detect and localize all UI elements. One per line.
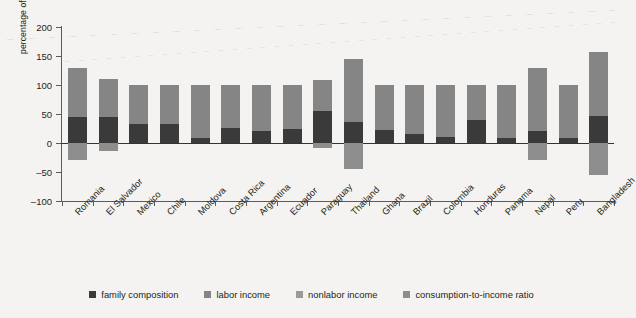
segment-consumption-to-income-ratio	[99, 143, 118, 151]
segment-labor-income	[467, 85, 486, 120]
bar-el-salvador[interactable]	[99, 27, 118, 201]
bar-ecuador[interactable]	[283, 27, 302, 201]
legend-label: labor income	[216, 289, 270, 300]
chart-legend: family compositionlabor incomenonlabor i…	[0, 286, 623, 302]
segment-labor-income	[559, 85, 578, 138]
bar-brazil[interactable]	[405, 27, 424, 201]
segment-family-composition	[405, 134, 424, 143]
segment-labor-income	[191, 85, 210, 138]
y-axis-tick-label: 50	[41, 110, 52, 120]
legend-swatch-icon	[89, 291, 96, 298]
legend-item-consumption-to-income-ratio[interactable]: consumption-to-income ratio	[403, 289, 533, 300]
segment-family-composition	[344, 122, 363, 143]
y-axis-tick-label: 150	[36, 52, 52, 62]
legend-swatch-icon	[296, 291, 303, 298]
legend-item-labor-income[interactable]: labor income	[204, 289, 270, 300]
segment-consumption-to-income-ratio	[68, 143, 87, 160]
segment-consumption-to-income-ratio	[313, 143, 332, 148]
y-axis-tick-label: 0	[47, 139, 52, 149]
bar-romania[interactable]	[68, 27, 87, 201]
bar-argentina[interactable]	[252, 27, 271, 201]
plot-area	[62, 27, 614, 201]
segment-family-composition	[160, 124, 179, 143]
segment-labor-income	[375, 85, 394, 130]
bar-ghana[interactable]	[375, 27, 394, 201]
segment-labor-income	[160, 85, 179, 124]
segment-consumption-to-income-ratio	[528, 143, 547, 160]
segment-family-composition	[221, 128, 240, 143]
x-axis-tick	[614, 201, 615, 206]
legend-label: family composition	[101, 289, 178, 300]
segment-labor-income	[68, 68, 87, 117]
segment-consumption-to-income-ratio	[344, 143, 363, 169]
segment-labor-income	[129, 85, 148, 124]
bar-colombia[interactable]	[436, 27, 455, 201]
bar-paraguay[interactable]	[313, 27, 332, 201]
y-axis-tick-labels: –100–50050100150200	[0, 0, 61, 318]
segment-family-composition	[68, 117, 87, 143]
y-axis-tick-label: –50	[36, 168, 52, 178]
bar-nepal[interactable]	[528, 27, 547, 201]
bar-panama[interactable]	[497, 27, 516, 201]
legend-label: consumption-to-income ratio	[415, 289, 533, 300]
segment-family-composition	[129, 124, 148, 143]
segment-labor-income	[589, 52, 608, 116]
bar-thailand[interactable]	[344, 27, 363, 201]
bar-costa-rica[interactable]	[221, 27, 240, 201]
legend-item-nonlabor-income[interactable]: nonlabor income	[296, 289, 377, 300]
legend-swatch-icon	[204, 291, 211, 298]
segment-labor-income	[436, 85, 455, 137]
segment-family-composition	[313, 111, 332, 143]
legend-item-family-composition[interactable]: family composition	[89, 289, 178, 300]
segment-family-composition	[559, 138, 578, 143]
segment-family-composition	[252, 131, 271, 143]
legend-swatch-icon	[403, 291, 410, 298]
bar-bangladesh[interactable]	[589, 27, 608, 201]
segment-family-composition	[589, 116, 608, 143]
segment-labor-income	[405, 85, 424, 134]
bar-peru[interactable]	[559, 27, 578, 201]
bar-honduras[interactable]	[467, 27, 486, 201]
legend-label: nonlabor income	[308, 289, 377, 300]
segment-consumption-to-income-ratio	[589, 143, 608, 175]
y-axis-tick-label: 200	[36, 23, 52, 33]
segment-family-composition	[375, 130, 394, 143]
x-axis-line	[61, 201, 614, 202]
segment-family-composition	[436, 137, 455, 143]
bar-chile[interactable]	[160, 27, 179, 201]
segment-labor-income	[99, 79, 118, 118]
segment-family-composition	[528, 131, 547, 143]
segment-family-composition	[99, 117, 118, 143]
segment-labor-income	[497, 85, 516, 138]
y-axis-tick-label: –100	[31, 197, 52, 207]
bar-moldova[interactable]	[191, 27, 210, 201]
segment-family-composition	[191, 138, 210, 143]
segment-family-composition	[497, 138, 516, 143]
segment-labor-income	[283, 85, 302, 129]
segment-labor-income	[344, 59, 363, 122]
segment-labor-income	[313, 80, 332, 111]
segment-family-composition	[283, 129, 302, 144]
bar-mexico[interactable]	[129, 27, 148, 201]
segment-family-composition	[467, 120, 486, 143]
segment-labor-income	[221, 85, 240, 128]
segment-labor-income	[252, 85, 271, 131]
y-axis-tick-label: 100	[36, 81, 52, 91]
segment-labor-income	[528, 68, 547, 131]
